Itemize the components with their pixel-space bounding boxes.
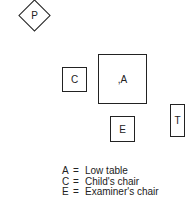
shape-t-label: T (174, 115, 180, 126)
legend-equals: = (73, 187, 85, 198)
shape-c-box: C (62, 67, 87, 92)
legend-desc: Low table (85, 165, 128, 176)
legend-key: E (62, 187, 73, 198)
legend-desc: Child's chair (85, 176, 139, 187)
legend-desc: Examiner's chair (85, 186, 159, 197)
legend-key: A (62, 166, 73, 177)
shape-e-label: E (119, 124, 126, 135)
shape-p-label: P (18, 0, 51, 32)
shape-a-label: ,A (118, 74, 127, 85)
shape-p-diamond: P (18, 0, 51, 32)
shape-a-box: ,A (98, 54, 147, 104)
shape-e-box: E (110, 116, 135, 142)
shape-c-label: C (71, 74, 78, 85)
legend-row-e: E=Examiner's chair (62, 187, 159, 198)
shape-t-box: T (170, 104, 185, 137)
legend-equals: = (73, 166, 85, 177)
legend: A=Low table C=Child's chair E=Examiner's… (62, 166, 159, 198)
